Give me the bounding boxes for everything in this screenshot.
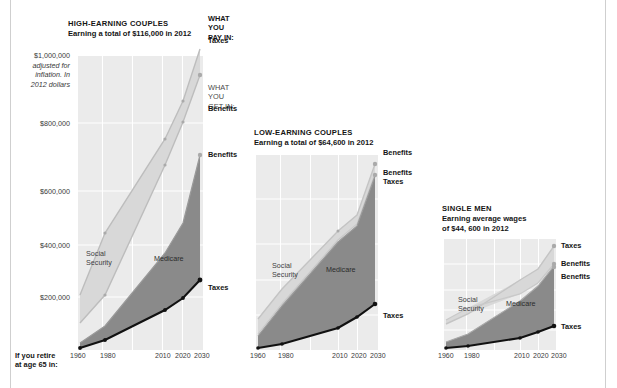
plot-svg [78, 55, 203, 350]
y-tick-1000000: $1,000,000 [8, 51, 70, 60]
callout-benefits-upper: Benefits [561, 259, 590, 268]
panel-single-men: SINGLE MEN Earning average wages of $44,… [430, 0, 617, 388]
plot-area-single-men: Social Security Medicare [444, 238, 556, 350]
x-tick-1980: 1980 [278, 352, 294, 359]
x-tick-1960: 1960 [438, 352, 454, 359]
x-tick-2020: 2020 [175, 352, 191, 359]
x-tick-2030: 2030 [551, 352, 567, 359]
y-tick-400000: $400,000 [8, 241, 70, 250]
panel-subtitle: Earning a total of $116,000 in 2012 [68, 29, 191, 39]
x-tick-2010: 2010 [155, 352, 171, 359]
x-tick-1960: 1960 [250, 352, 266, 359]
panel-title: SINGLE MEN [442, 204, 492, 214]
area-label-medicare: Medicare [326, 266, 356, 275]
callout-benefits-top: Benefits [383, 148, 412, 157]
x-tick-1960: 1960 [70, 352, 86, 359]
panel-low-earning-couples: LOW-EARNING COUPLES Earning a total of $… [250, 0, 445, 388]
callout-taxes-lower: Taxes [383, 311, 403, 320]
callout-taxes-top: Taxes [561, 241, 581, 250]
figure-page: HIGH-EARNING COUPLES Earning a total of … [0, 0, 617, 388]
plot-area-high-earning-couples: Social Security Medicare [78, 55, 203, 350]
plot-svg [256, 154, 378, 350]
y-tick-200000: $200,000 [8, 293, 70, 302]
y-tick-800000: $800,000 [8, 119, 70, 128]
callout-taxes-lower: Taxes [208, 283, 228, 292]
x-axis-note: If you retire at age 65 in: [15, 351, 58, 370]
area-label-social-security: Social Security [272, 262, 298, 279]
x-tick-2020: 2020 [351, 352, 367, 359]
x-tick-2030: 2030 [194, 352, 210, 359]
callout-benefits-upper: Benefits [208, 104, 237, 113]
panel-high-earning-couples: HIGH-EARNING COUPLES Earning a total of … [0, 0, 240, 388]
x-tick-2010: 2010 [514, 352, 530, 359]
panel-title: LOW-EARNING COUPLES [254, 128, 353, 138]
y-tick-600000: $600,000 [8, 187, 70, 196]
area-label-social-security: Social Security [458, 296, 484, 313]
x-tick-1980: 1980 [464, 352, 480, 359]
x-tick-1980: 1980 [100, 352, 116, 359]
panel-title: HIGH-EARNING COUPLES [68, 19, 168, 29]
callout-benefits-taxes-mid: Benefits Taxes [383, 168, 412, 187]
area-label-medicare: Medicare [154, 255, 184, 264]
area-label-social-security: Social Security [86, 250, 112, 267]
plot-svg [444, 238, 556, 350]
x-tick-2030: 2030 [370, 352, 386, 359]
x-tick-2020: 2020 [533, 352, 549, 359]
area-label-medicare: Medicare [506, 300, 536, 309]
callout-benefits-mid: Benefits [561, 272, 590, 281]
callout-taxes-upper: Taxes [208, 36, 228, 45]
panel-subtitle: Earning a total of $64,600 in 2012 [254, 138, 373, 148]
y-axis-note: adjusted for inflation. In 2012 dollars [8, 61, 70, 89]
plot-area-low-earning-couples: Social Security Medicare [256, 154, 378, 350]
callout-benefits-lower: Benefits [208, 150, 237, 159]
x-tick-2010: 2010 [332, 352, 348, 359]
panel-subtitle: Earning average wages of $44, 600 in 201… [442, 214, 526, 233]
callout-taxes-lower: Taxes [561, 322, 581, 331]
